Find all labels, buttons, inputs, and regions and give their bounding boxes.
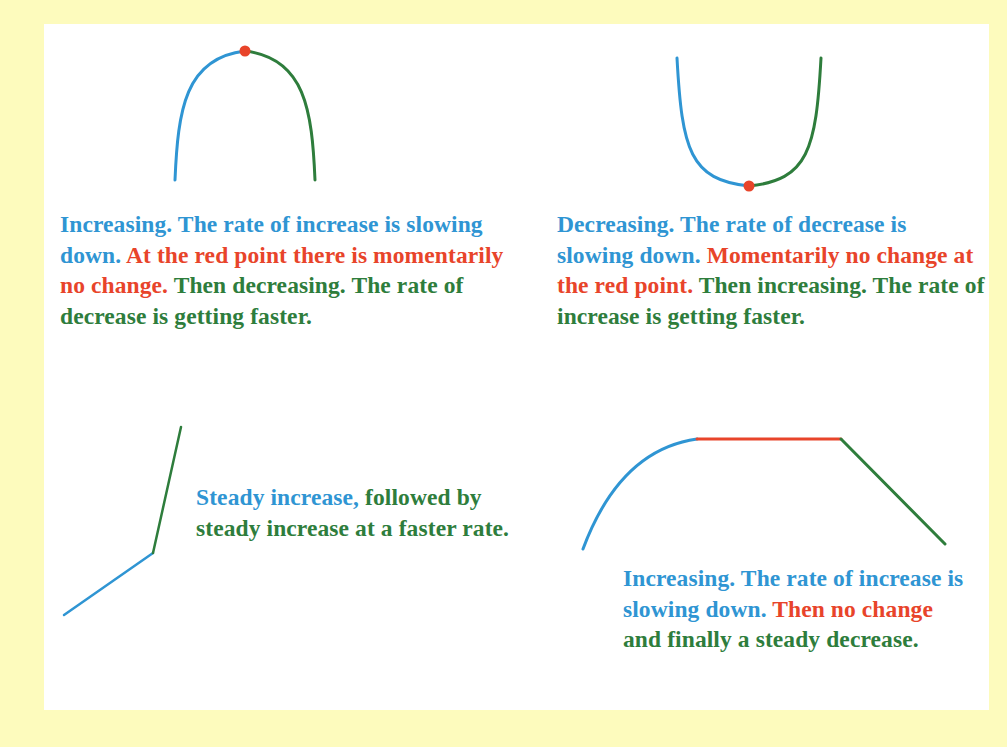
caption-steady-increase-text: Steady increase, bbox=[196, 484, 359, 510]
caption-maximum: Increasing. The rate of increase is slow… bbox=[60, 209, 520, 331]
steady-decrease-segment bbox=[841, 439, 945, 544]
caption-no-change-text: Then no change bbox=[772, 596, 933, 622]
caption-plateau: Increasing. The rate of increase is slow… bbox=[623, 563, 973, 655]
slowing-increase-segment bbox=[583, 439, 697, 549]
caption-steady-increase: Steady increase, followed by steady incr… bbox=[196, 482, 516, 543]
caption-steady-decrease-text: and finally a steady decrease. bbox=[623, 626, 919, 652]
caption-minimum: Decreasing. The rate of decrease is slow… bbox=[557, 209, 987, 331]
